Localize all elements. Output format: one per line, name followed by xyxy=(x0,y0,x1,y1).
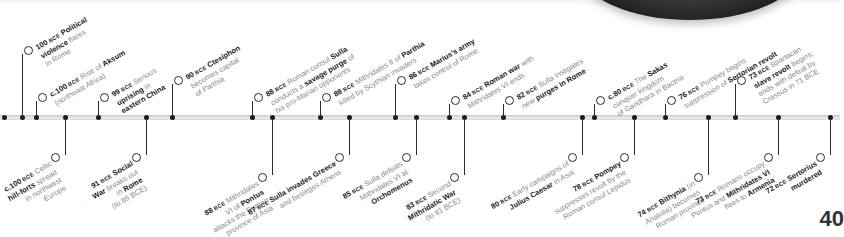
event-label-above: 90 BCE Ctesiphon becomes capital of Part… xyxy=(184,43,251,98)
event-label-below: c.100 BCE Celtic hill-forts spread in no… xyxy=(1,159,67,219)
event-marker-ring xyxy=(764,153,773,162)
event-marker-ring xyxy=(174,76,183,85)
event-label-below: 83 BCE Second Mithridatic War (to 81 BCE… xyxy=(401,179,462,230)
connector-line xyxy=(778,119,780,155)
event-marker-ring xyxy=(694,173,703,182)
connector-line xyxy=(395,84,397,117)
event-marker-ring xyxy=(451,96,460,105)
event-marker-ring xyxy=(258,173,267,182)
connector-line xyxy=(634,119,636,155)
connector-line xyxy=(36,101,38,117)
connector-line xyxy=(708,119,710,175)
connector-line xyxy=(665,104,667,117)
event-marker-ring xyxy=(450,173,459,182)
connector-line xyxy=(830,119,832,155)
event-label-below: 91 BCE Social War breaks out in Rome (to… xyxy=(86,159,149,217)
connector-line xyxy=(98,101,100,117)
event-label-below: 72 BCE Sertorius murdered xyxy=(764,159,823,204)
connector-line xyxy=(449,104,451,117)
event-marker-ring xyxy=(816,153,825,162)
connector-line xyxy=(349,119,351,155)
connector-line xyxy=(416,119,418,155)
connector-line xyxy=(65,119,67,155)
event-marker-ring xyxy=(132,153,141,162)
timeline-dot xyxy=(2,115,7,120)
event-marker-ring xyxy=(100,93,109,102)
page-number: 40 xyxy=(820,206,844,232)
event-label-above: 99 BCE Serious uprising in eastern China xyxy=(110,66,167,115)
connector-line xyxy=(252,101,254,117)
timeline-bar xyxy=(0,115,840,120)
event-marker-ring xyxy=(322,93,331,102)
connector-line xyxy=(594,104,596,117)
event-marker-ring xyxy=(667,96,676,105)
event-marker-ring xyxy=(620,153,629,162)
coin-image xyxy=(580,0,800,20)
connector-line xyxy=(320,101,322,117)
connector-line xyxy=(146,119,148,155)
event-marker-ring xyxy=(24,46,33,55)
event-marker-ring xyxy=(568,153,577,162)
event-marker-ring xyxy=(38,93,47,102)
event-label-above: c.80 BCE The Sakas conquer kingdom of Ga… xyxy=(606,56,685,118)
connector-line xyxy=(464,119,466,175)
event-marker-ring xyxy=(505,96,514,105)
event-marker-ring xyxy=(335,153,344,162)
event-marker-ring xyxy=(402,153,411,162)
connector-line xyxy=(582,119,584,155)
connector-line xyxy=(272,119,274,175)
event-marker-ring xyxy=(254,93,263,102)
event-marker-ring xyxy=(596,96,605,105)
event-label-above: 100 BCE Political violence flares in Rom… xyxy=(34,15,98,68)
connector-line xyxy=(22,54,24,117)
connector-line xyxy=(503,104,505,117)
connector-line xyxy=(735,84,737,117)
event-marker-ring xyxy=(51,153,60,162)
event-marker-ring xyxy=(397,76,406,85)
event-marker-ring xyxy=(737,76,746,85)
connector-line xyxy=(172,84,174,117)
